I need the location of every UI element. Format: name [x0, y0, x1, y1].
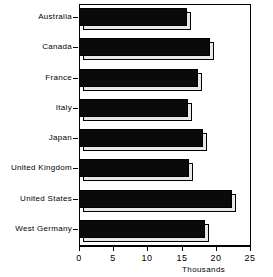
x-tick — [79, 246, 80, 251]
x-tick-label: 5 — [98, 253, 128, 263]
bar-face — [79, 69, 198, 87]
x-tick — [250, 246, 251, 251]
x-tick-label: 25 — [235, 253, 265, 263]
x-tick — [147, 246, 148, 251]
category-label: Japan — [0, 133, 72, 142]
bar — [79, 220, 210, 243]
x-tick-label: 20 — [201, 253, 231, 263]
category-tick — [73, 78, 78, 79]
category-tick — [73, 229, 78, 230]
x-tick-label: 15 — [167, 253, 197, 263]
category-tick — [73, 199, 78, 200]
bar-chart: AustraliaCanadaFranceItalyJapanUnited Ki… — [0, 0, 273, 277]
x-tick-label: 10 — [132, 253, 162, 263]
bar-face — [79, 190, 232, 208]
x-tick — [113, 246, 114, 251]
category-label: France — [0, 73, 72, 82]
category-label: West Germany — [0, 224, 72, 233]
bar — [79, 8, 192, 31]
category-tick — [73, 168, 78, 169]
bar-face — [79, 220, 205, 238]
x-tick — [216, 246, 217, 251]
x-axis-line — [79, 246, 251, 247]
category-axis: AustraliaCanadaFranceItalyJapanUnited Ki… — [0, 4, 72, 246]
category-label: United States — [0, 194, 72, 203]
bar — [79, 69, 203, 92]
bar-face — [79, 99, 188, 117]
category-tick — [73, 47, 78, 48]
category-tick — [73, 108, 78, 109]
bar-face — [79, 8, 187, 26]
bar-face — [79, 38, 210, 56]
x-tick-label: 0 — [64, 253, 94, 263]
category-tick — [73, 17, 78, 18]
category-label: Canada — [0, 42, 72, 51]
category-label: United Kingdom — [0, 163, 72, 172]
bar — [79, 190, 237, 213]
category-label: Italy — [0, 103, 72, 112]
x-axis-unit-label: Thousands — [182, 265, 225, 274]
x-tick — [182, 246, 183, 251]
bars-layer — [79, 4, 251, 246]
bar — [79, 99, 193, 122]
category-label: Australia — [0, 12, 72, 21]
bar — [79, 159, 194, 182]
bar-face — [79, 159, 189, 177]
bar — [79, 38, 215, 61]
bar-face — [79, 129, 203, 147]
category-tick — [73, 138, 78, 139]
bar — [79, 129, 208, 152]
